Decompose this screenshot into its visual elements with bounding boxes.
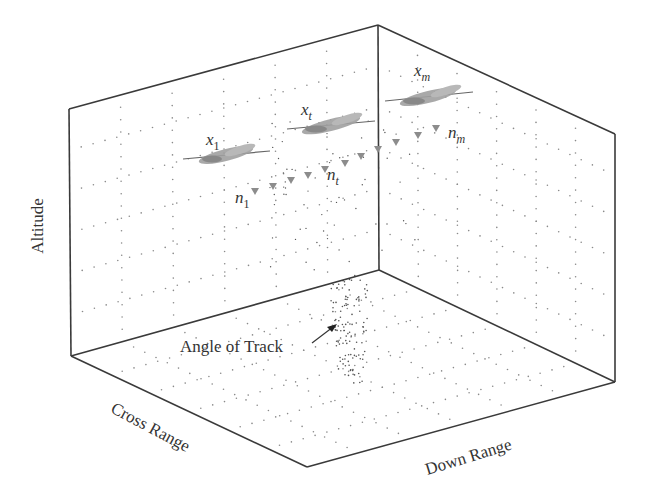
- frame-left-vertical: [69, 109, 71, 356]
- tracking-3d-diagram: Angle of Track Altitude Cross Range Down…: [0, 0, 647, 504]
- aircraft-x1: [183, 141, 270, 167]
- angle-of-track-label: Angle of Track: [180, 337, 283, 356]
- grid-dots: [80, 51, 604, 449]
- frame-top-left-edge: [69, 25, 378, 109]
- floor-front-left-edge: [71, 356, 307, 467]
- altitude-axis-label: Altitude: [28, 198, 47, 254]
- down-range-axis-label: Down Range: [423, 435, 514, 479]
- noise-arrowheads: [251, 125, 440, 195]
- aircraft-xm: [385, 82, 473, 110]
- label-x1: x1: [205, 130, 220, 153]
- floor-back-right-edge: [379, 270, 615, 382]
- label-xt: xt: [300, 100, 313, 123]
- label-n1: n1: [235, 188, 250, 211]
- track-scatter: [269, 121, 415, 384]
- label-nt: nt: [327, 165, 340, 188]
- box-frame: [69, 25, 615, 467]
- label-xm: xm: [413, 61, 431, 84]
- angle-of-track-arrow: [312, 324, 337, 343]
- label-nm: nm: [448, 123, 466, 146]
